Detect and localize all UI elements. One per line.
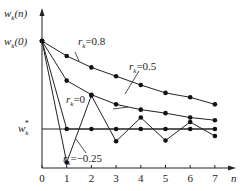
y-axis-arrow-icon	[40, 8, 45, 16]
x-tick-label: 5	[163, 172, 169, 184]
data-point	[163, 111, 168, 116]
data-point	[114, 102, 119, 107]
data-point	[89, 93, 94, 98]
data-point	[64, 127, 69, 132]
y-axis-label: wk(n)	[4, 7, 28, 22]
label-r0: rk=0	[66, 93, 86, 108]
data-point	[40, 39, 45, 44]
label-r05: rk=0.5	[129, 60, 157, 75]
data-point	[114, 127, 119, 132]
data-point	[213, 127, 218, 132]
data-point	[139, 83, 144, 88]
data-point	[188, 115, 193, 120]
data-point	[213, 134, 218, 139]
x-tick-label: 4	[138, 172, 144, 184]
x-tick-label: 1	[64, 172, 70, 184]
data-point	[64, 78, 69, 83]
x-tick-label: 2	[89, 172, 95, 184]
data-point	[188, 127, 193, 132]
data-point	[114, 74, 119, 79]
data-point	[163, 91, 168, 96]
x-axis-label: n	[231, 172, 237, 184]
label-rm025: rk=−0.25	[63, 152, 103, 167]
x-axis-arrow-icon	[228, 166, 236, 171]
data-point	[64, 54, 69, 59]
data-point	[139, 127, 144, 132]
y-target-label: wk*	[18, 119, 29, 137]
data-point	[188, 95, 193, 100]
data-point	[163, 138, 168, 143]
data-point	[139, 115, 144, 120]
data-point	[89, 127, 94, 132]
x-tick-label: 7	[212, 172, 218, 184]
data-point	[213, 118, 218, 123]
x-tick-label: 6	[187, 172, 193, 184]
data-point	[213, 102, 218, 107]
data-point	[114, 139, 119, 144]
x-tick-label: 3	[113, 172, 119, 184]
convergence-chart: 01234567 wk(n) wk(0) wk* n rk=0.8 rk=0.5…	[0, 0, 243, 191]
axes	[42, 12, 232, 168]
data-point	[188, 120, 193, 125]
label-r08: rk=0.8	[78, 35, 106, 50]
data-point	[163, 127, 168, 132]
data-point	[89, 65, 94, 70]
y-start-label: wk(0)	[4, 35, 28, 50]
x-tick-label: 0	[39, 172, 45, 184]
data-point	[139, 107, 144, 112]
